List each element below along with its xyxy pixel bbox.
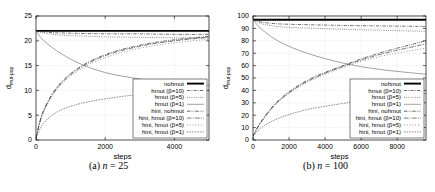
legend-label-hini-hmut-1: hini, hmut (β=1) xyxy=(142,129,184,135)
legend-label-hmut-5: hmut (β=5) xyxy=(155,94,184,100)
caption-b-value: 100 xyxy=(333,160,348,171)
y-tick-label: 30 xyxy=(241,99,249,106)
legend-label-hini-hmut-5: hini, hmut (β=5) xyxy=(359,122,401,128)
legend: nohmuthmut (β=10)hmut (β=5)hmut (β=1)hin… xyxy=(133,79,207,138)
caption-b-variable: n xyxy=(317,160,322,171)
legend-label-hmut-10: hmut (β=10) xyxy=(368,88,401,94)
y-axis-label: dmut-pop xyxy=(4,67,14,90)
plot-area-b: 010203040506070809010002000400060008000s… xyxy=(217,0,434,160)
y-tick-label: 0 xyxy=(245,136,249,143)
y-axis-label: dmut-pop xyxy=(221,67,231,90)
legend-label-hini-hmut-1: hini, hmut (β=1) xyxy=(359,129,401,135)
x-tick-label: 4000 xyxy=(167,143,183,150)
x-tick-label: 4000 xyxy=(317,143,333,150)
series-line-hmut-1 xyxy=(253,20,426,75)
y-tick-label: 10 xyxy=(24,87,32,94)
y-tick-label: 10 xyxy=(241,124,249,131)
x-tick-label: 2000 xyxy=(281,143,297,150)
legend-label-hini-nohmut: hini, nohmut xyxy=(151,108,184,114)
legend-label-hmut-10: hmut (β=10) xyxy=(151,88,184,94)
x-axis-label: steps xyxy=(114,152,132,160)
panel-a: 0510152025020004000stepsdmut-popnohmuthm… xyxy=(0,0,217,192)
y-tick-label: 15 xyxy=(24,62,32,69)
x-tick-label: 6000 xyxy=(353,143,369,150)
series-line-hmut-10 xyxy=(253,20,426,27)
legend-label-hmut-1: hmut (β=1) xyxy=(372,101,401,107)
caption-a-equals: = xyxy=(110,160,116,171)
chart-b-svg: 010203040506070809010002000400060008000s… xyxy=(217,0,434,160)
y-tick-label: 90 xyxy=(241,25,249,32)
figure-two-panel-line-charts: 0510152025020004000stepsdmut-popnohmuthm… xyxy=(0,0,435,192)
x-tick-label: 0 xyxy=(34,143,38,150)
y-tick-label: 50 xyxy=(241,74,249,81)
y-tick-label: 25 xyxy=(24,12,32,19)
caption-a: (a) n = 25 xyxy=(0,160,217,171)
caption-b: (b) n = 100 xyxy=(217,160,434,171)
y-tick-label: 80 xyxy=(241,37,249,44)
legend-label-hini-nohmut: hini, nohmut xyxy=(368,108,401,114)
svg-text:dmut-pop: dmut-pop xyxy=(4,67,14,90)
y-tick-label: 20 xyxy=(24,37,32,44)
legend-label-hmut-1: hmut (β=1) xyxy=(155,101,184,107)
legend-label-hmut-5: hmut (β=5) xyxy=(372,94,401,100)
legend-label-hini-hmut-10: hini, hmut (β=10) xyxy=(356,115,401,121)
y-tick-label: 5 xyxy=(28,112,32,119)
caption-b-prefix: (b) xyxy=(303,160,315,171)
caption-a-value: 25 xyxy=(118,160,128,171)
x-tick-label: 8000 xyxy=(389,143,405,150)
series-line-hmut-5 xyxy=(36,31,209,38)
plot-area-a: 0510152025020004000stepsdmut-popnohmuthm… xyxy=(0,0,217,160)
x-tick-label: 0 xyxy=(251,143,255,150)
panel-b: 010203040506070809010002000400060008000s… xyxy=(217,0,434,192)
legend-label-hini-hmut-10: hini, hmut (β=10) xyxy=(139,115,184,121)
caption-a-prefix: (a) xyxy=(89,160,100,171)
caption-a-variable: n xyxy=(102,160,107,171)
legend: nohmuthmut (β=10)hmut (β=5)hmut (β=1)hin… xyxy=(350,79,424,138)
legend-label-nohmut: nohmut xyxy=(164,81,184,87)
y-tick-label: 0 xyxy=(28,136,32,143)
y-tick-label: 40 xyxy=(241,87,249,94)
y-tick-label: 60 xyxy=(241,62,249,69)
legend-label-hini-hmut-5: hini, hmut (β=5) xyxy=(142,122,184,128)
chart-a-svg: 0510152025020004000stepsdmut-popnohmuthm… xyxy=(0,0,217,160)
y-tick-label: 100 xyxy=(237,12,249,19)
x-tick-label: 2000 xyxy=(97,143,113,150)
y-tick-label: 70 xyxy=(241,50,249,57)
svg-text:dmut-pop: dmut-pop xyxy=(221,67,231,90)
legend-label-nohmut: nohmut xyxy=(381,81,401,87)
caption-b-equals: = xyxy=(325,160,331,171)
y-tick-label: 20 xyxy=(241,112,249,119)
x-axis-label: steps xyxy=(331,152,349,160)
